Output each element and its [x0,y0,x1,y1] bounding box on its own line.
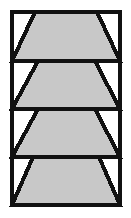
band-group-4 [12,157,120,205]
band-group-2 [12,61,120,109]
figure-container: Stacked trapezoid bands diagram A black-… [0,0,131,218]
band-group-1 [12,12,120,61]
trapezoid-bands-diagram: Stacked trapezoid bands diagram A black-… [0,0,131,218]
band-group-3 [12,109,120,157]
band-4-trapezoid [12,157,120,205]
